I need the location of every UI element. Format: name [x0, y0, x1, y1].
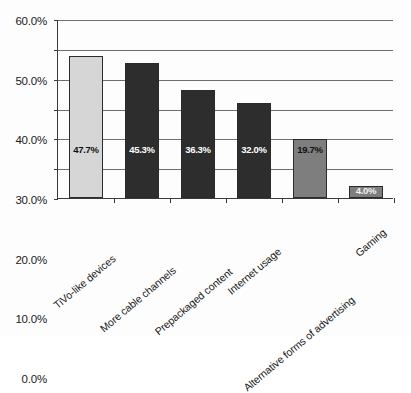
y-axis-tick-label: 10.0% — [15, 313, 47, 325]
bar-slot: 32.0% — [226, 20, 282, 198]
y-axis-tick-label: 60.0% — [15, 15, 47, 27]
bar-value-label: 45.3% — [129, 144, 154, 155]
category-axis-labels: TiVo-like devicesMore cable channelsPrep… — [57, 203, 393, 323]
y-axis-tick-label: 40.0% — [15, 134, 47, 146]
bar[interactable] — [69, 56, 103, 198]
bar-slot: 4.0% — [338, 20, 394, 198]
y-axis-tick-label: 30.0% — [15, 194, 47, 206]
x-axis-tick — [394, 198, 395, 203]
plot-area: 0.0%10.0%20.0%30.0%40.0%50.0%60.0% 47.7%… — [57, 20, 393, 199]
y-axis-tick: 0.0% — [54, 199, 58, 200]
category-label: Gaming — [352, 226, 387, 258]
bar-slot: 47.7% — [58, 20, 114, 198]
bar-value-label: 32.0% — [241, 144, 266, 155]
y-axis-tick-label: 0.0% — [22, 373, 47, 385]
bar[interactable] — [125, 63, 159, 198]
bar-slot: 36.3% — [170, 20, 226, 198]
category-label: TiVo-like devices — [51, 252, 117, 310]
category-label: Internet usage — [225, 245, 283, 296]
category-label: Alternative forms of advertising — [241, 294, 357, 393]
bars-group: 47.7%45.3%36.3%32.0%19.7%4.0% — [58, 20, 393, 198]
bar-slot: 19.7% — [282, 20, 338, 198]
bar-value-label: 4.0% — [356, 185, 376, 196]
bar-value-label: 36.3% — [185, 144, 210, 155]
bar-value-label: 19.7% — [297, 144, 322, 155]
y-axis-tick-label: 20.0% — [15, 254, 47, 266]
bar-slot: 45.3% — [114, 20, 170, 198]
y-axis-tick-label: 50.0% — [15, 75, 47, 87]
bar-value-label: 47.7% — [73, 144, 98, 155]
